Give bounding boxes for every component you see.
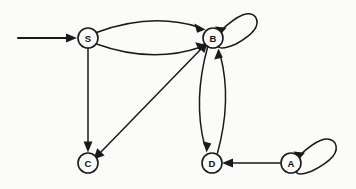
node-c-label: C bbox=[85, 158, 92, 169]
edge-s-to-b-upper bbox=[97, 21, 206, 33]
edge-b-c-line bbox=[99, 48, 202, 154]
start-arrowhead bbox=[66, 33, 77, 42]
edge-d-b-line bbox=[218, 56, 226, 153]
edge-a-to-d bbox=[222, 158, 281, 167]
edge-b-to-d bbox=[199, 48, 211, 153]
edge-b-d-line bbox=[199, 48, 207, 146]
graph-svg: S B C D A bbox=[0, 0, 356, 189]
edge-s-c-arrowhead bbox=[84, 142, 93, 153]
edge-s-b-upper-arrowhead bbox=[194, 24, 205, 33]
edge-b-self-loop-line bbox=[219, 14, 258, 48]
node-a-label: A bbox=[288, 158, 295, 169]
node-a[interactable]: A bbox=[281, 153, 301, 173]
graph-canvas: S B C D A bbox=[0, 0, 356, 189]
edge-s-to-c bbox=[84, 49, 93, 153]
edge-b-d-arrowhead bbox=[203, 141, 212, 152]
edge-a-self-loop-line bbox=[297, 139, 337, 174]
node-b[interactable]: B bbox=[203, 28, 223, 48]
edge-a-d-arrowhead bbox=[222, 158, 233, 167]
node-d-label: D bbox=[209, 158, 216, 169]
edge-d-to-b bbox=[214, 49, 225, 154]
edge-start-to-s bbox=[18, 33, 77, 42]
node-c[interactable]: C bbox=[78, 153, 98, 173]
node-s[interactable]: S bbox=[78, 28, 98, 48]
node-d[interactable]: D bbox=[202, 153, 222, 173]
edge-s-b-upper-line bbox=[97, 21, 201, 33]
node-b-label: B bbox=[210, 33, 217, 44]
edge-s-to-b-lower bbox=[97, 42, 207, 55]
edge-s-b-lower-line bbox=[97, 44, 202, 55]
node-s-label: S bbox=[85, 33, 91, 44]
edge-b-c-bidirectional bbox=[94, 42, 209, 160]
